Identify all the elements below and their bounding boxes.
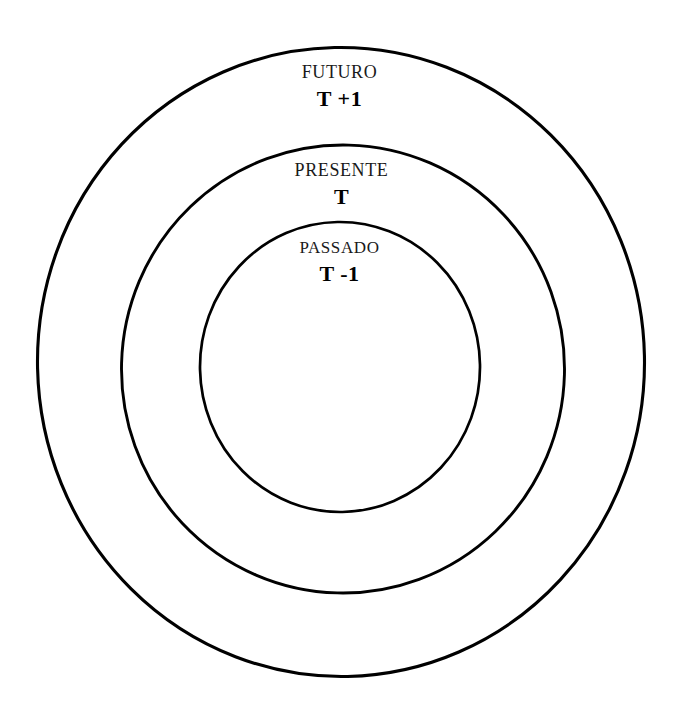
ring-label-middle-period: T — [0, 186, 679, 208]
ring-label-outer: FUTURO T +1 — [0, 63, 679, 110]
concentric-rings-diagram: FUTURO T +1 PRESENTE T PASSADO T -1 — [0, 0, 679, 722]
ring-label-inner-name: PASSADO — [0, 239, 679, 256]
ring-label-inner: PASSADO T -1 — [0, 239, 679, 285]
ring-label-outer-period: T +1 — [0, 88, 679, 110]
ring-label-outer-name: FUTURO — [0, 63, 679, 81]
ring-label-inner-period: T -1 — [0, 263, 679, 285]
ring-label-middle: PRESENTE T — [0, 161, 679, 208]
ring-label-middle-name: PRESENTE — [0, 161, 679, 179]
